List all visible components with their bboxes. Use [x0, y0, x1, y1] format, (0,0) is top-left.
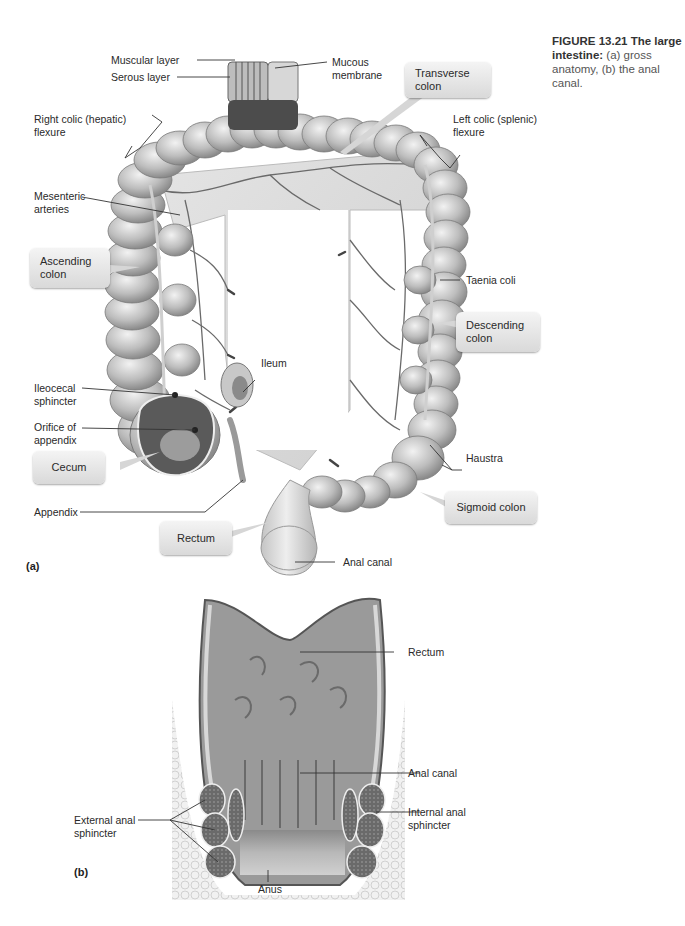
figure-caption: FIGURE 13.21 The large intestine: (a) gr… — [552, 34, 685, 90]
label-anus: Anus — [258, 883, 282, 896]
label-anal-canal-a: Anal canal — [343, 556, 392, 569]
label-ileum: Ileum — [261, 357, 287, 370]
label-rectum-b: Rectum — [408, 646, 444, 659]
label-mesenteric-arteries: Mesenteric arteries — [34, 190, 85, 215]
label-right-colic-flexure: Right colic (hepatic) flexure — [34, 113, 126, 138]
panel-b-tag: (b) — [74, 866, 88, 878]
wall-section — [228, 62, 298, 130]
label-ileocecal-sphincter: Ileocecal sphincter — [34, 382, 77, 407]
callout-ascending-colon: Ascending colon — [30, 248, 110, 288]
label-haustra: Haustra — [466, 452, 503, 465]
label-muscular-layer: Muscular layer — [111, 54, 179, 67]
figure-number: FIGURE 13.21 — [552, 35, 627, 47]
callout-transverse-colon: Transverse colon — [405, 62, 491, 98]
label-taenia-coli: Taenia coli — [466, 274, 516, 287]
label-anal-canal-b: Anal canal — [408, 767, 457, 780]
label-appendix: Appendix — [34, 506, 78, 519]
label-mucous-membrane: Mucous membrane — [332, 56, 382, 81]
anal-canal-section — [172, 599, 405, 900]
callout-descending-colon: Descending colon — [456, 312, 540, 352]
label-orifice-of-appendix: Orifice of appendix — [34, 421, 77, 446]
callout-cecum: Cecum — [33, 451, 105, 484]
rectum-a — [261, 480, 317, 575]
label-serous-layer: Serous layer — [111, 71, 170, 84]
label-external-anal-sphincter: External anal sphincter — [74, 814, 135, 839]
callout-sigmoid-colon: Sigmoid colon — [445, 491, 537, 524]
label-left-colic-flexure: Left colic (splenic) flexure — [453, 113, 537, 138]
label-internal-anal-sphincter: Internal anal sphincter — [408, 806, 466, 831]
callout-rectum: Rectum — [160, 521, 232, 555]
panel-a-tag: (a) — [26, 560, 39, 572]
